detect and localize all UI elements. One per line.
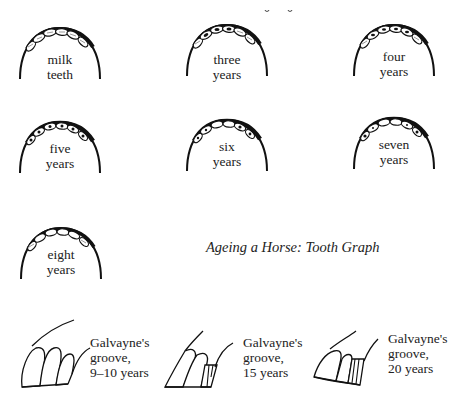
jaw-label-line2: years bbox=[351, 152, 437, 167]
groove-label-line2: groove, bbox=[243, 350, 284, 366]
jaw-label-line2: years bbox=[18, 262, 104, 277]
jaw-label-line1: six bbox=[184, 139, 270, 154]
cropped-top-text bbox=[262, 0, 302, 4]
jaw-label-line2: years bbox=[184, 154, 270, 169]
jaw-label-line2: teeth bbox=[17, 67, 103, 82]
jaw-label-line1: three bbox=[184, 52, 270, 67]
jaw-label-line2: years bbox=[351, 64, 437, 79]
jaw-diagram-four-years: four years bbox=[351, 22, 437, 80]
tooth-profile-icon bbox=[312, 333, 392, 393]
groove-diagram-9-10-years: Galvayne's groove, 9–10 years bbox=[18, 322, 158, 402]
groove-label-line2: groove, bbox=[90, 350, 131, 366]
jaw-diagram-five-years: five years bbox=[17, 119, 103, 177]
groove-diagram-20-years: Galvayne's groove, 20 years bbox=[312, 333, 454, 403]
jaw-label-line1: eight bbox=[18, 247, 104, 262]
jaw-label-line2: years bbox=[17, 156, 103, 171]
jaw-label-line1: milk bbox=[17, 52, 103, 67]
jaw-label-line1: seven bbox=[351, 137, 437, 152]
groove-label-line3: 15 years bbox=[243, 365, 288, 381]
jaw-diagram-six-years: six years bbox=[184, 117, 270, 175]
jaw-diagram-seven-years: seven years bbox=[351, 115, 437, 173]
groove-label-line1: Galvayne's bbox=[388, 331, 447, 347]
groove-label-line3: 9–10 years bbox=[90, 365, 149, 381]
jaw-diagram-milk-teeth: milk teeth bbox=[17, 25, 103, 83]
groove-label-line2: groove, bbox=[388, 346, 429, 362]
jaw-diagram-eight-years: eight years bbox=[18, 225, 104, 283]
tooth-profile-icon bbox=[163, 335, 243, 395]
groove-label-line1: Galvayne's bbox=[90, 335, 149, 351]
jaw-label-line2: years bbox=[184, 67, 270, 82]
figure-caption: Ageing a Horse: Tooth Graph bbox=[206, 239, 379, 256]
groove-diagram-15-years: Galvayne's groove, 15 years bbox=[163, 335, 303, 405]
jaw-diagram-three-years: three years bbox=[184, 22, 270, 80]
jaw-label-line1: five bbox=[17, 141, 103, 156]
groove-label-line3: 20 years bbox=[388, 361, 433, 377]
groove-label-line1: Galvayne's bbox=[243, 335, 302, 351]
tooth-profile-icon bbox=[18, 322, 98, 392]
jaw-label-line1: four bbox=[351, 49, 437, 64]
